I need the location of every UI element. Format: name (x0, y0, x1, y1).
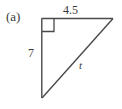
hypotenuse-line (42, 19, 113, 99)
part-label: (a) (6, 10, 20, 23)
hypotenuse-length-label: t (79, 60, 82, 71)
right-angle-marker-icon (42, 19, 54, 32)
top-side-length-label: 4.5 (63, 4, 78, 16)
left-side-length-label: 7 (28, 47, 34, 59)
figure-container: (a) 4.5 7 t (0, 0, 122, 109)
